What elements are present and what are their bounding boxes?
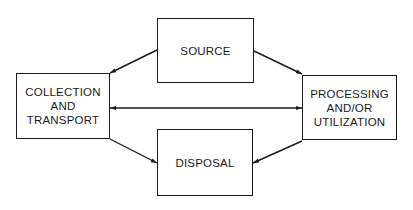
node-collection-label-line2: AND [51,99,76,113]
arrow-source-to-collection [110,50,157,73]
node-processing-label-line1: PROCESSING [310,87,389,101]
node-collection-and-transport: COLLECTION AND TRANSPORT [16,73,110,139]
node-source: SOURCE [157,18,254,83]
node-disposal: DISPOSAL [157,129,253,196]
node-processing-and-or-utilization: PROCESSING AND/OR UTILIZATION [302,75,397,140]
arrow-source-to-processing [254,51,302,74]
node-disposal-label: DISPOSAL [175,156,234,170]
node-collection-label-line3: TRANSPORT [27,113,100,127]
arrow-processing-to-disposal [253,141,302,163]
node-processing-label-line3: UTILIZATION [314,115,386,129]
node-source-label: SOURCE [180,44,230,58]
node-processing-label-line2: AND/OR [327,101,373,115]
node-collection-label-line1: COLLECTION [25,85,101,99]
waste-flow-diagram: SOURCE COLLECTION AND TRANSPORT PROCESSI… [0,0,413,210]
arrow-collection-to-disposal [110,139,157,163]
